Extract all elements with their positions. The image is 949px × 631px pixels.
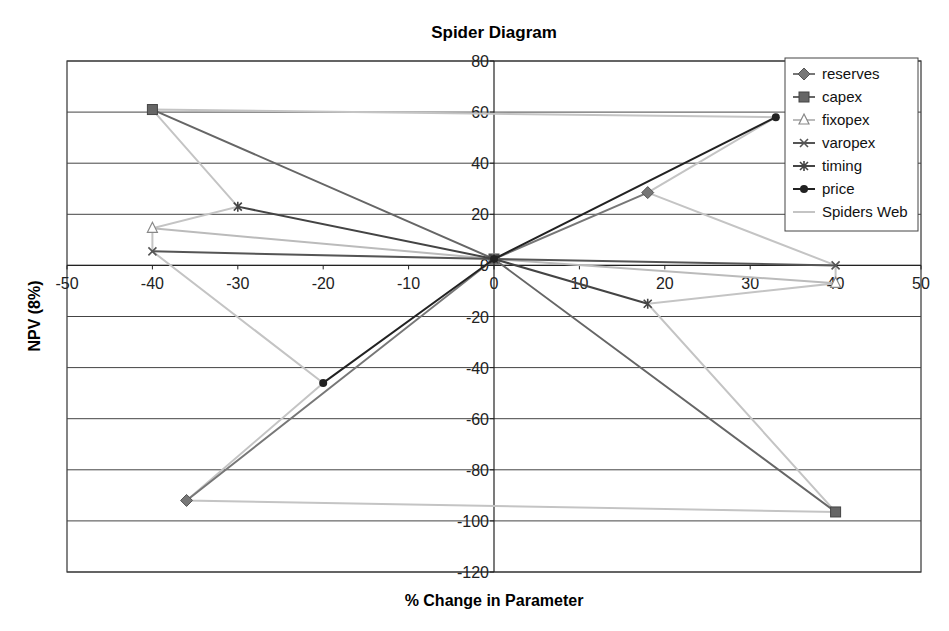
y-axis-label: NPV (8%): [26, 280, 43, 351]
y-tick-label: 40: [471, 155, 489, 172]
x-tick-label: -50: [55, 275, 78, 292]
x-tick-label: -30: [226, 275, 249, 292]
legend: reservescapexfixopexvaropextimingpriceSp…: [785, 58, 918, 231]
square-marker: [147, 105, 157, 115]
y-tick-label: -60: [466, 411, 489, 428]
legend-label: fixopex: [822, 111, 870, 128]
legend-label: Spiders Web: [822, 203, 908, 220]
x-tick-label: -20: [312, 275, 335, 292]
y-tick-label: -120: [457, 564, 489, 581]
x-tick-label: 0: [490, 275, 499, 292]
square-icon: [799, 92, 809, 102]
legend-label: capex: [822, 88, 863, 105]
legend-label: reserves: [822, 65, 880, 82]
y-tick-label: -40: [466, 360, 489, 377]
x-tick-label: -10: [397, 275, 420, 292]
x-tick-label: 50: [912, 275, 930, 292]
spider-chart: Spider Diagram 806040200-20-40-60-80-100…: [0, 0, 949, 631]
circle-icon: [800, 185, 808, 193]
chart-title: Spider Diagram: [431, 23, 557, 42]
x-tick-label: -40: [141, 275, 164, 292]
y-tick-label: -100: [457, 513, 489, 530]
legend-label: varopex: [822, 134, 876, 151]
circle-marker: [319, 379, 327, 387]
x-tick-label: 20: [656, 275, 674, 292]
circle-marker: [772, 113, 780, 121]
y-tick-label: -80: [466, 462, 489, 479]
y-tick-label: 80: [471, 53, 489, 70]
legend-label: price: [822, 180, 855, 197]
square-marker: [831, 507, 841, 517]
circle-marker: [490, 255, 498, 263]
legend-label: timing: [822, 157, 862, 174]
x-axis-label: % Change in Parameter: [405, 592, 584, 609]
y-tick-label: 20: [471, 206, 489, 223]
y-tick-label: -20: [466, 309, 489, 326]
